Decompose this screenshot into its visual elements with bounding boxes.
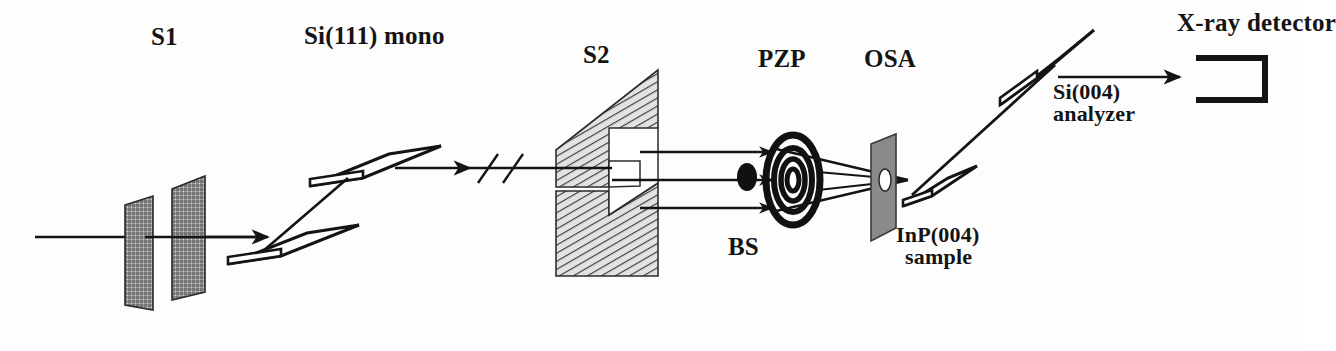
diffracted-beam-line bbox=[912, 65, 1055, 195]
component-inp-sample-crystal bbox=[903, 166, 977, 206]
s2-aperture-opening bbox=[609, 161, 640, 187]
label-s1: S1 bbox=[151, 24, 178, 50]
component-s2-slit bbox=[555, 70, 658, 276]
label-osa: OSA bbox=[864, 46, 916, 72]
detector-housing-outline bbox=[1196, 58, 1265, 100]
beam-path-break-mark bbox=[470, 154, 555, 183]
label-s2: S2 bbox=[583, 42, 610, 68]
label-bs: BS bbox=[728, 234, 759, 260]
component-si111-monochromator bbox=[205, 146, 470, 264]
label-xray-detector: X-ray detector bbox=[1177, 10, 1336, 36]
mono-crystal-lower-edge bbox=[228, 249, 281, 264]
beamstop-disc bbox=[737, 163, 757, 191]
zone-ring-4 bbox=[787, 169, 799, 191]
sample-crystal-edge bbox=[903, 190, 932, 206]
osa-hole bbox=[879, 169, 891, 191]
label-si111-mono: Si(111) mono bbox=[304, 23, 445, 49]
label-pzp: PZP bbox=[758, 46, 806, 72]
label-inp-sample-line2: sample bbox=[905, 246, 972, 269]
mono-crystal-upper-edge bbox=[310, 171, 363, 186]
component-bs-beamstop bbox=[737, 163, 757, 191]
sample-to-analyzer-beam bbox=[912, 65, 1055, 195]
component-xray-detector bbox=[1196, 58, 1265, 100]
label-si004-analyzer-line2: analyzer bbox=[1053, 103, 1135, 126]
s1-blade-front bbox=[125, 196, 153, 310]
component-osa-aperture bbox=[871, 134, 896, 241]
component-s1-slit bbox=[125, 176, 262, 310]
s2-blade-lower bbox=[556, 183, 658, 276]
